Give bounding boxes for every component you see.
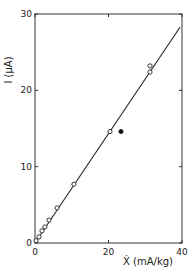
open-data-point — [148, 64, 152, 68]
y-tick-label: 10 — [21, 162, 33, 172]
regression-line — [35, 27, 180, 243]
filled-data-point — [119, 129, 123, 133]
open-data-point — [55, 206, 59, 210]
y-axis-label: I (µA) — [3, 56, 14, 83]
open-data-point — [37, 235, 41, 239]
x-tick-label: 40 — [176, 247, 188, 257]
tick-labels: 020400102030 — [21, 9, 188, 257]
y-tick-label: 30 — [21, 9, 33, 19]
fit-line — [35, 27, 180, 243]
data-points — [34, 64, 152, 243]
scatter-chart: 020400102030 Ẋ (mA/kg) I (µA) — [0, 0, 194, 275]
y-tick-label: 20 — [21, 85, 33, 95]
open-data-point — [40, 229, 44, 233]
x-tick-label: 20 — [103, 247, 115, 257]
open-data-point — [47, 218, 51, 222]
open-data-point — [34, 239, 38, 243]
open-data-point — [148, 70, 152, 74]
open-data-point — [108, 129, 112, 133]
x-axis-label: Ẋ (mA/kg) — [123, 255, 173, 267]
y-tick-label: 0 — [26, 238, 32, 248]
x-tick-label: 0 — [32, 247, 38, 257]
open-data-point — [43, 225, 47, 229]
open-data-point — [72, 182, 76, 186]
